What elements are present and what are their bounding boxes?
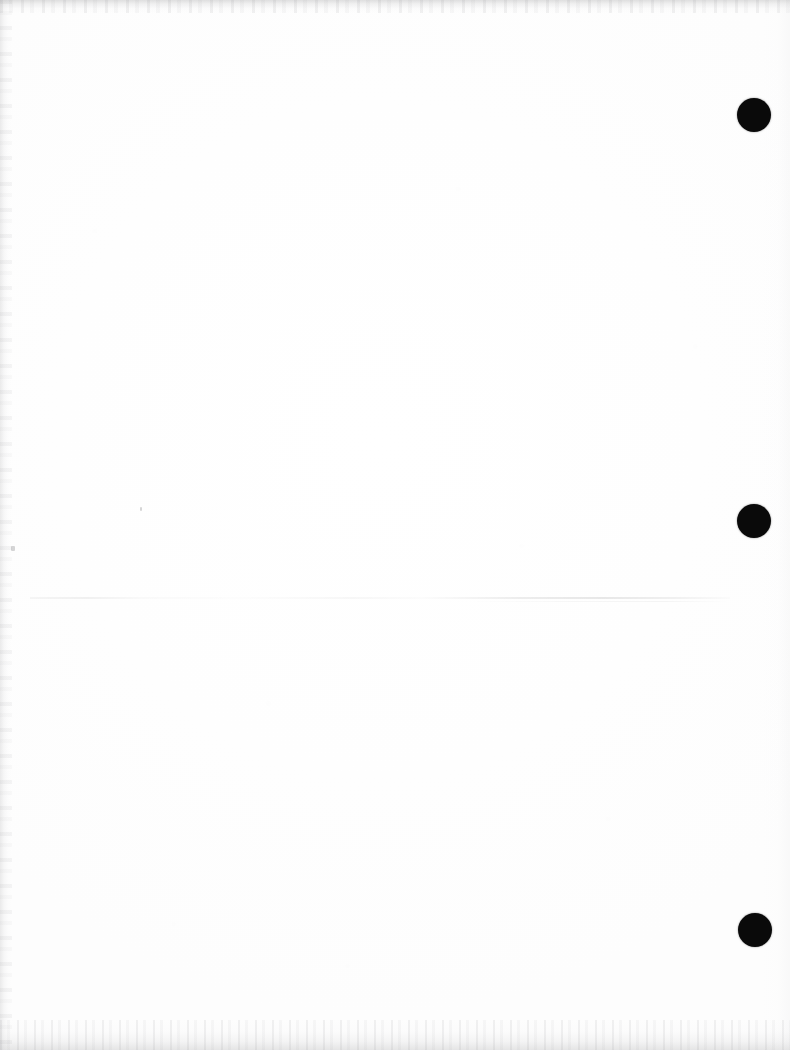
scanner-edge-top-artifact [0, 0, 790, 13]
speck-left-margin [11, 546, 15, 551]
registration-dot-bottom [738, 913, 772, 947]
speck-upper-left [140, 507, 142, 511]
registration-dot-top [737, 98, 771, 132]
paper-background [0, 0, 790, 1050]
faint-horizontal-scan-line-echo [470, 601, 730, 602]
faint-horizontal-scan-line [30, 597, 730, 599]
scanner-edge-left-artifact [0, 0, 12, 1050]
scanner-edge-bottom-artifact [0, 1020, 790, 1050]
registration-dot-middle [737, 504, 771, 538]
scanned-page [0, 0, 790, 1050]
